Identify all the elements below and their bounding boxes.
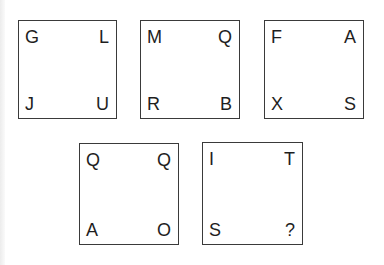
- letter-top-left: F: [271, 28, 282, 46]
- letter-bottom-left: J: [25, 95, 34, 113]
- letter-box-4: Q Q A O: [79, 143, 179, 245]
- letter-bottom-right: S: [344, 95, 356, 113]
- page-edge-shadow: [0, 0, 5, 265]
- question-mark-unknown: ?: [285, 221, 295, 239]
- letter-bottom-left: A: [86, 221, 98, 239]
- letter-top-right: Q: [157, 151, 171, 169]
- letter-bottom-left: S: [209, 221, 221, 239]
- letter-box-5: I T S ?: [202, 142, 303, 245]
- letter-top-left: I: [209, 150, 214, 168]
- letter-bottom-right: U: [96, 95, 109, 113]
- letter-box-3: F A X S: [264, 20, 364, 119]
- letter-bottom-left: X: [271, 95, 283, 113]
- letter-bottom-right: O: [157, 221, 171, 239]
- letter-top-right: T: [284, 150, 295, 168]
- letter-top-left: M: [147, 28, 162, 46]
- letter-box-1: G L J U: [18, 20, 117, 119]
- letter-top-left: Q: [86, 151, 100, 169]
- letter-top-left: G: [25, 28, 39, 46]
- letter-box-2: M Q R B: [140, 20, 240, 119]
- letter-bottom-right: B: [220, 95, 232, 113]
- letter-top-right: A: [344, 28, 356, 46]
- letter-bottom-left: R: [147, 95, 160, 113]
- letter-top-right: L: [99, 28, 109, 46]
- letter-top-right: Q: [218, 28, 232, 46]
